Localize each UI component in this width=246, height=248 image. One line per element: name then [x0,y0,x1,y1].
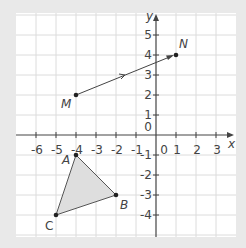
label-a: A [61,153,70,167]
label-c: C [45,219,53,233]
label-b: B [120,198,128,212]
svg-text:4: 4 [144,48,152,62]
y-axis-label: y [145,9,154,23]
svg-text:2: 2 [193,143,201,157]
label-m: M [61,97,72,111]
svg-text:-3: -3 [140,188,152,202]
svg-text:-6: -6 [31,143,43,157]
point-n [174,53,179,58]
svg-text:0: 0 [160,143,168,157]
point-b [114,193,119,198]
point-m [74,93,79,98]
svg-text:-1: -1 [140,148,152,162]
svg-text:3: 3 [144,68,152,82]
point-a [74,153,79,158]
svg-text:-4: -4 [140,208,152,222]
svg-text:-2: -2 [111,143,123,157]
x-axis-label: x [227,137,236,151]
point-c [54,213,59,218]
origin-label: 0 [144,120,152,134]
svg-text:1: 1 [173,143,181,157]
svg-text:3: 3 [213,143,221,157]
svg-text:-3: -3 [91,143,103,157]
svg-text:-2: -2 [140,168,152,182]
svg-text:2: 2 [144,88,152,102]
label-n: N [179,37,188,51]
svg-text:5: 5 [144,28,152,42]
coordinate-diagram: -6 -5 -4 -3 -2 -1 0 1 2 3 5 4 3 2 1 -1 -… [0,0,246,248]
